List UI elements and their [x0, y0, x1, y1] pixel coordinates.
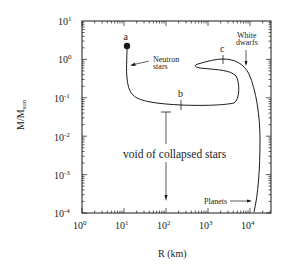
x-tick-label: 100 [73, 219, 87, 231]
point-a-marker [124, 43, 130, 49]
point-c-label: c [220, 43, 225, 54]
y-axis-title: M/Msun [15, 99, 28, 130]
white-dwarfs-label-line2: dwarfs [236, 38, 258, 47]
y-tick-label: 101 [58, 15, 72, 27]
planets-label: Planets [204, 197, 227, 206]
mass-radius-curve [127, 46, 260, 212]
point-b-label: b [178, 88, 183, 99]
y-tick-label: 10-3 [54, 169, 70, 181]
y-tick-label: 10-1 [54, 92, 70, 104]
x-axis-title: R (km) [158, 248, 187, 260]
x-tick-label: 101 [115, 219, 129, 231]
y-tick-labels: 101 100 10-1 10-2 10-3 10-4 [54, 15, 72, 219]
x-tick-labels: 100 101 102 103 104 [73, 219, 255, 231]
y-tick-label: 100 [58, 53, 72, 65]
chart-canvas: 101 100 10-1 10-2 10-3 10-4 100 101 102 … [0, 0, 285, 270]
svg-text:M/Msun: M/Msun [15, 99, 28, 130]
void-arrowhead [165, 195, 168, 201]
axis-ticks [82, 21, 271, 213]
x-tick-label: 102 [157, 219, 171, 231]
x-tick-label: 104 [241, 219, 255, 231]
planets-arrowhead [247, 200, 252, 203]
y-tick-label: 10-2 [54, 131, 70, 143]
y-tick-label: 10-4 [54, 207, 70, 219]
white-dwarfs-arrowhead [245, 61, 248, 66]
x-tick-label: 103 [199, 219, 213, 231]
void-label: void of collapsed stars [123, 148, 227, 161]
neutron-stars-label-line2: stars [153, 62, 168, 71]
neutron-stars-arrowhead [130, 63, 136, 67]
point-a-label: a [124, 31, 129, 42]
plot-frame [82, 21, 271, 213]
